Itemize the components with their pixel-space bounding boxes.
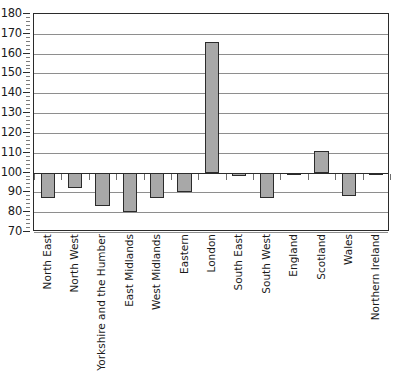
x-axis-tick — [171, 174, 172, 180]
y-axis-tick — [23, 211, 30, 212]
y-axis-tick — [23, 33, 30, 34]
x-axis-label: Wales — [342, 234, 354, 265]
x-axis-label: East Midlands — [123, 234, 135, 307]
y-axis-tick — [23, 112, 30, 113]
y-axis-minor-tick — [26, 84, 30, 85]
x-axis-tick — [363, 174, 364, 180]
x-axis-tick — [116, 174, 117, 180]
y-axis-tick — [23, 172, 30, 173]
y-axis-minor-tick — [26, 80, 30, 81]
x-axis-label: North East — [41, 234, 53, 289]
y-axis-minor-tick — [26, 41, 30, 42]
y-axis-minor-tick — [26, 207, 30, 208]
y-axis-minor-tick — [26, 203, 30, 204]
y-axis-tick-label: 180 — [1, 8, 22, 19]
bars-layer — [34, 14, 388, 230]
y-axis-minor-tick — [26, 49, 30, 50]
bar — [150, 173, 164, 199]
plot-area — [33, 13, 389, 231]
x-axis-tick — [198, 174, 199, 180]
y-axis-tick — [23, 53, 30, 54]
y-axis-minor-tick — [26, 227, 30, 228]
y-axis-tick — [23, 72, 30, 73]
bar — [342, 173, 356, 197]
y-axis-tick — [23, 191, 30, 192]
y-axis-minor-tick — [26, 215, 30, 216]
x-axis-label: Northern Ireland — [369, 234, 381, 320]
y-axis-minor-tick — [26, 21, 30, 22]
bar — [232, 173, 246, 177]
y-axis-tick-label: 70 — [8, 226, 22, 237]
y-axis-minor-tick — [26, 61, 30, 62]
bar-chart: 180170160150140130120110100908070 North … — [0, 0, 398, 387]
y-axis-tick — [23, 152, 30, 153]
y-axis-minor-tick — [26, 88, 30, 89]
y-axis-minor-tick — [26, 168, 30, 169]
x-axis-tick — [280, 174, 281, 180]
y-axis-minor-tick — [26, 25, 30, 26]
y-axis-tick — [23, 92, 30, 93]
x-axis-label: England — [287, 234, 299, 277]
x-axis-tick — [61, 174, 62, 180]
bar — [287, 173, 301, 175]
y-axis-tick — [23, 231, 30, 232]
y-axis-minor-tick — [26, 65, 30, 66]
y-axis-tick — [23, 13, 30, 14]
x-axis-tick — [253, 174, 254, 180]
y-axis-minor-tick — [26, 176, 30, 177]
bar — [123, 173, 137, 213]
bar — [95, 173, 109, 207]
x-axis-tick — [34, 174, 35, 180]
y-axis-tick-label: 130 — [1, 107, 22, 118]
y-axis-minor-tick — [26, 37, 30, 38]
y-axis-minor-tick — [26, 219, 30, 220]
y-axis-minor-tick — [26, 144, 30, 145]
y-axis-tick-label: 100 — [1, 166, 22, 177]
bar — [369, 173, 383, 175]
x-axis-tick — [89, 174, 90, 180]
y-axis-minor-tick — [26, 96, 30, 97]
y-axis-tick-label: 120 — [1, 126, 22, 137]
y-axis-minor-tick — [26, 148, 30, 149]
y-axis-minor-tick — [26, 104, 30, 105]
x-axis-tick — [390, 174, 391, 180]
y-axis-minor-tick — [26, 195, 30, 196]
y-axis-tick-label: 90 — [8, 186, 22, 197]
y-axis-minor-tick — [26, 45, 30, 46]
y-axis-minor-tick — [26, 68, 30, 69]
x-axis-label: South West — [260, 234, 272, 294]
y-axis: 180170160150140130120110100908070 — [0, 0, 33, 387]
y-axis-tick-label: 160 — [1, 47, 22, 58]
bar — [205, 42, 219, 173]
y-axis-minor-tick — [26, 76, 30, 77]
y-axis-tick-label: 80 — [8, 206, 22, 217]
y-axis-minor-tick — [26, 108, 30, 109]
y-axis-minor-tick — [26, 183, 30, 184]
y-axis-minor-tick — [26, 29, 30, 30]
y-axis-tick-label: 150 — [1, 67, 22, 78]
y-axis-minor-tick — [26, 120, 30, 121]
y-axis-minor-tick — [26, 57, 30, 58]
x-axis-tick — [144, 174, 145, 180]
x-axis-label: London — [205, 234, 217, 273]
y-axis-minor-tick — [26, 124, 30, 125]
x-axis-label: North West — [68, 234, 80, 293]
gridline — [34, 232, 388, 233]
bar — [314, 151, 328, 173]
y-axis-minor-tick — [26, 128, 30, 129]
x-axis-label: Eastern — [178, 234, 190, 274]
y-axis-minor-tick — [26, 17, 30, 18]
y-axis-tick-label: 170 — [1, 27, 22, 38]
y-axis-minor-tick — [26, 160, 30, 161]
x-axis-tick — [335, 174, 336, 180]
bar — [41, 173, 55, 199]
y-axis-tick — [23, 132, 30, 133]
y-axis-minor-tick — [26, 140, 30, 141]
y-axis-minor-tick — [26, 179, 30, 180]
bar — [68, 173, 82, 189]
y-axis-minor-tick — [26, 136, 30, 137]
x-axis-label: Scotland — [315, 234, 327, 280]
y-axis-minor-tick — [26, 100, 30, 101]
y-axis-minor-tick — [26, 223, 30, 224]
y-axis-minor-tick — [26, 164, 30, 165]
